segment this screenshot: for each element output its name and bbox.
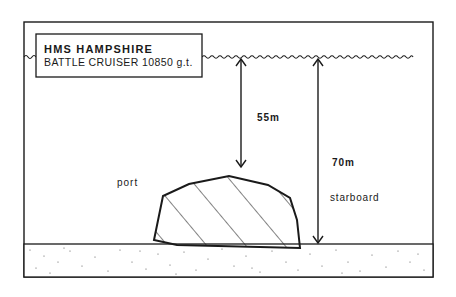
depth-label-55m: 55m (257, 112, 280, 123)
depth-arrow-55m (236, 59, 246, 167)
depth-label-70m: 70m (332, 157, 355, 168)
starboard-side-label: starboard (330, 192, 379, 203)
ship-description: BATTLE CRUISER 10850 g.t. (44, 56, 193, 68)
ship-name: HMS HAMPSHIRE (44, 43, 153, 55)
depth-arrow-70m (313, 59, 323, 243)
seabed (24, 244, 433, 277)
wreck-hull (154, 176, 300, 248)
port-side-label: port (117, 177, 138, 188)
